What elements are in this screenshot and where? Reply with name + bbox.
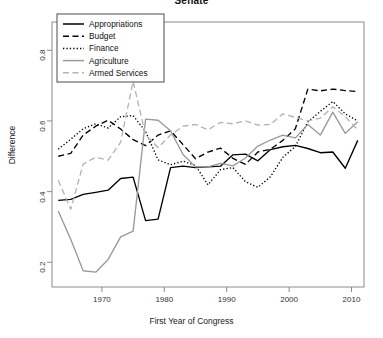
chart-figure: Senate 197019801990200020100.20.40.60.8 … (0, 0, 383, 338)
x-tick-label: 1990 (207, 295, 247, 304)
y-axis-label: Difference (7, 110, 17, 180)
legend-label: Armed Services (89, 68, 148, 78)
plot-area (0, 0, 383, 338)
series-line (58, 112, 358, 272)
x-axis-label: First Year of Congress (0, 316, 383, 326)
x-tick-label: 1980 (144, 295, 184, 304)
y-tick-label: 0.2 (38, 262, 47, 284)
legend-label: Finance (89, 43, 119, 53)
y-tick-label: 0.6 (38, 120, 47, 142)
legend-label: Appropriations (89, 19, 143, 29)
series-group (58, 81, 358, 272)
x-tick-label: 2010 (332, 295, 372, 304)
chart-title: Senate (0, 0, 383, 6)
series-line (58, 89, 358, 164)
series-line (58, 81, 358, 209)
y-tick-label: 0.8 (38, 50, 47, 72)
y-tick-label: 0.4 (38, 191, 47, 213)
legend-label: Budget (89, 31, 115, 41)
x-tick-label: 1970 (82, 295, 122, 304)
legend-label: Agriculture (89, 56, 129, 66)
series-line (58, 102, 358, 188)
x-tick-label: 2000 (269, 295, 309, 304)
